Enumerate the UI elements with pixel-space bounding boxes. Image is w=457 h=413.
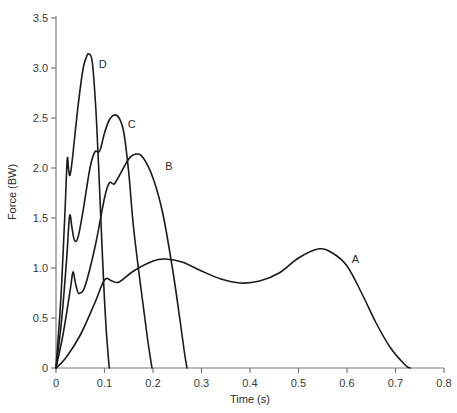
curve-label-a: A <box>352 253 360 265</box>
y-tick-label: 0.5 <box>33 312 48 324</box>
x-tick-label: 0.4 <box>242 377 257 389</box>
curve-label-b: B <box>165 160 172 172</box>
y-tick-label: 2.0 <box>33 162 48 174</box>
y-tick-label: 3.5 <box>33 12 48 24</box>
x-tick-label: 0.8 <box>436 377 451 389</box>
curve-label-c: C <box>128 118 136 130</box>
x-tick-label: 0.2 <box>145 377 160 389</box>
curve-labels: ABCD <box>99 58 360 265</box>
x-tick-label: 0.1 <box>97 377 112 389</box>
y-tick-label: 2.5 <box>33 112 48 124</box>
curve-b <box>56 154 187 368</box>
x-tick-label: 0 <box>53 377 59 389</box>
force-time-chart: 00.10.20.30.40.50.60.70.8 00.51.01.52.02… <box>0 0 457 413</box>
axes: 00.10.20.30.40.50.60.70.8 00.51.01.52.02… <box>6 12 452 405</box>
y-tick-label: 1.5 <box>33 212 48 224</box>
curve-c <box>56 115 152 368</box>
y-ticks: 00.51.01.52.02.53.03.5 <box>33 12 56 374</box>
y-tick-label: 3.0 <box>33 62 48 74</box>
y-axis-title: Force (BW) <box>6 164 18 220</box>
y-tick-label: 0 <box>42 362 48 374</box>
x-tick-label: 0.6 <box>339 377 354 389</box>
x-tick-label: 0.7 <box>388 377 403 389</box>
x-ticks: 00.10.20.30.40.50.60.70.8 <box>53 368 452 389</box>
y-tick-label: 1.0 <box>33 262 48 274</box>
curves <box>56 54 410 368</box>
curve-a <box>56 249 410 368</box>
x-tick-label: 0.3 <box>194 377 209 389</box>
x-tick-label: 0.5 <box>291 377 306 389</box>
curve-label-d: D <box>99 58 107 70</box>
x-axis-title: Time (s) <box>230 393 270 405</box>
